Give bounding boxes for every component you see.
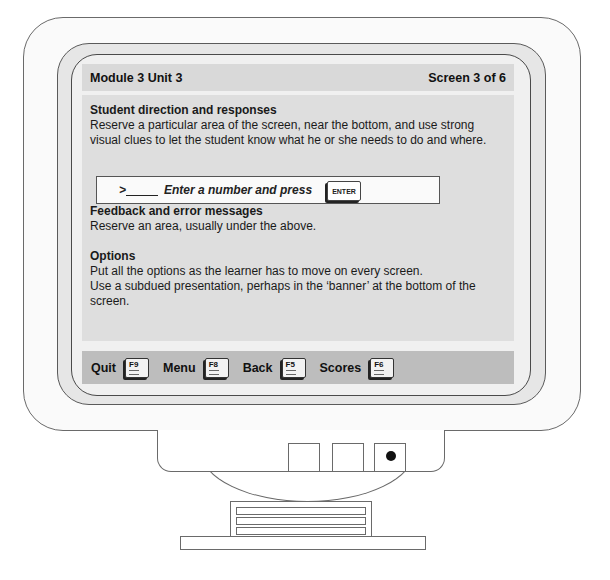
section-body-line: Use a subdued presentation, perhaps in t… <box>90 279 506 309</box>
stand-base <box>180 536 426 550</box>
power-indicator-icon <box>386 451 396 461</box>
scores-label: Scores <box>320 361 362 375</box>
section-body: Reserve an area, usually under the above… <box>90 219 506 234</box>
vent-slat <box>236 507 366 515</box>
back-label: Back <box>243 361 273 375</box>
section-feedback: Feedback and error messages Reserve an a… <box>90 204 506 234</box>
key-label: F6 <box>374 360 383 369</box>
module-title: Module 3 Unit 3 <box>90 71 182 85</box>
section-title: Student direction and responses <box>90 103 506 118</box>
section-title: Options <box>90 249 506 264</box>
f8-key-icon[interactable]: F8 <box>205 358 229 378</box>
response-prompt[interactable]: > Enter a number and press ENTER <box>96 176 440 204</box>
enter-key-label: ENTER <box>332 188 356 195</box>
section-body: Reserve a particular area of the screen,… <box>90 118 506 148</box>
power-button[interactable] <box>374 443 406 472</box>
section-options: Options Put all the options as the learn… <box>90 249 506 309</box>
f9-key-icon[interactable]: F9 <box>125 358 149 378</box>
f5-key-icon[interactable]: F5 <box>282 358 306 378</box>
screen-counter: Screen 3 of 6 <box>428 71 506 85</box>
prompt-text: Enter a number and press <box>164 183 312 197</box>
monitor-control-button[interactable] <box>288 443 320 472</box>
key-label: F8 <box>209 360 218 369</box>
key-label: F9 <box>129 360 138 369</box>
enter-key-icon[interactable]: ENTER <box>327 181 361 201</box>
section-title: Feedback and error messages <box>90 204 506 219</box>
quit-label: Quit <box>91 361 116 375</box>
options-banner: Quit F9 Menu F8 Back F5 Scores F6 <box>82 351 514 384</box>
stand-vent <box>230 501 372 537</box>
response-input[interactable] <box>126 185 158 196</box>
key-label: F5 <box>286 360 295 369</box>
content-area: Student direction and responses Reserve … <box>82 95 514 341</box>
header-bar: Module 3 Unit 3 Screen 3 of 6 <box>82 64 514 91</box>
prompt-prefix: > <box>119 183 126 197</box>
f6-key-icon[interactable]: F6 <box>370 358 394 378</box>
vent-slat <box>236 527 366 535</box>
menu-label: Menu <box>163 361 196 375</box>
monitor-control-button[interactable] <box>332 443 364 472</box>
section-student-direction: Student direction and responses Reserve … <box>90 103 506 148</box>
section-body-line: Put all the options as the learner has t… <box>90 264 506 279</box>
vent-slat <box>236 517 366 525</box>
